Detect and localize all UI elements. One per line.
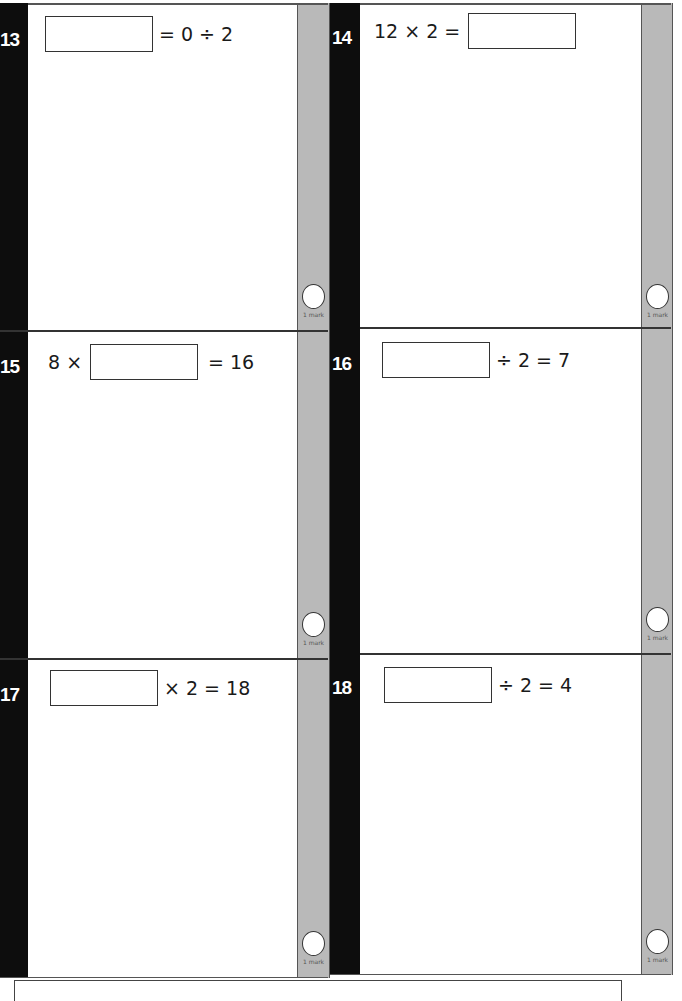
- question-expression: ÷ 2 = 7: [382, 342, 576, 378]
- question-17: 17 × 2 = 18 1 mark: [0, 660, 331, 976]
- mark-label: 1 mark: [298, 311, 329, 318]
- expression-text: × 2 = 18: [164, 677, 250, 699]
- mark-indicator: 1 mark: [642, 607, 673, 641]
- answer-box[interactable]: [382, 342, 490, 378]
- question-expression: 12 × 2 =: [374, 13, 576, 49]
- question-number: 15: [0, 356, 19, 378]
- question-number: 18: [332, 677, 351, 699]
- mark-indicator: 1 mark: [642, 929, 673, 963]
- question-18: 18 ÷ 2 = 4 1 mark: [330, 655, 674, 973]
- mark-label: 1 mark: [298, 958, 329, 965]
- mark-indicator: 1 mark: [642, 284, 673, 318]
- mark-label: 1 mark: [642, 956, 673, 963]
- question-number: 17: [0, 684, 19, 706]
- mark-circle-icon[interactable]: [646, 929, 669, 954]
- question-14: 14 12 × 2 = 1 mark: [330, 3, 674, 327]
- expression-text: ÷ 2 = 7: [496, 349, 570, 371]
- mark-circle-icon[interactable]: [302, 284, 325, 309]
- mark-label: 1 mark: [642, 634, 673, 641]
- mark-indicator: 1 mark: [298, 284, 329, 318]
- question-expression: = 0 ÷ 2: [45, 16, 239, 52]
- footer-box: [14, 980, 622, 1001]
- expression-text: = 16: [208, 351, 254, 373]
- mark-indicator: 1 mark: [298, 612, 329, 646]
- expression-text: 12 × 2 =: [374, 20, 460, 42]
- left-question-column: 13 = 0 ÷ 2 1 mark 15 8 × = 16 1 mark 17 …: [0, 3, 331, 978]
- mark-indicator: 1 mark: [298, 931, 329, 965]
- question-expression: ÷ 2 = 4: [384, 667, 578, 703]
- bottom-border: [330, 974, 671, 976]
- mark-label: 1 mark: [642, 311, 673, 318]
- question-expression: 8 × = 16: [44, 344, 260, 380]
- answer-box[interactable]: [50, 670, 158, 706]
- mark-circle-icon[interactable]: [646, 284, 669, 309]
- mark-circle-icon[interactable]: [302, 612, 325, 637]
- bottom-border: [0, 977, 328, 979]
- question-number: 16: [332, 353, 351, 375]
- mark-circle-icon[interactable]: [302, 931, 325, 956]
- mark-circle-icon[interactable]: [646, 607, 669, 632]
- expression-text: ÷ 2 = 4: [498, 674, 572, 696]
- mark-label: 1 mark: [298, 639, 329, 646]
- question-13: 13 = 0 ÷ 2 1 mark: [0, 3, 331, 330]
- answer-box[interactable]: [90, 344, 198, 380]
- question-number: 13: [0, 29, 19, 51]
- expression-text: = 0 ÷ 2: [159, 23, 233, 45]
- question-15: 15 8 × = 16 1 mark: [0, 332, 331, 658]
- expression-text: 8 ×: [48, 351, 82, 373]
- question-16: 16 ÷ 2 = 7 1 mark: [330, 329, 674, 653]
- answer-box[interactable]: [45, 16, 153, 52]
- right-question-column: 14 12 × 2 = 1 mark 16 ÷ 2 = 7 1 mark 18 …: [330, 3, 674, 975]
- answer-box[interactable]: [468, 13, 576, 49]
- answer-box[interactable]: [384, 667, 492, 703]
- question-number: 14: [332, 27, 351, 49]
- question-expression: × 2 = 18: [50, 670, 256, 706]
